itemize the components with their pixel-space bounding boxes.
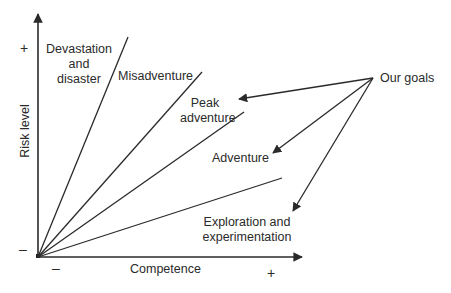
zone-label-misadventure: Misadventure xyxy=(118,69,193,84)
zone-label-devastation-line1: Devastation xyxy=(44,42,114,57)
zone-label-peak-adventure: Peak adventure xyxy=(180,96,230,126)
zone-label-peak-line1: Peak xyxy=(180,96,230,111)
zone-label-devastation-line2: and xyxy=(44,57,114,72)
x-axis-plus-sign: + xyxy=(267,266,275,280)
zone-label-exploration-line1: Exploration and xyxy=(202,215,292,230)
zone-label-devastation-line3: disaster xyxy=(44,72,114,87)
x-axis-label: Competence xyxy=(130,262,201,277)
goal-arrow-exploration xyxy=(293,78,373,211)
boundary-line-misadventure xyxy=(38,72,202,257)
goal-arrow-peak-adventure xyxy=(239,78,373,99)
our-goals-label: Our goals xyxy=(380,71,434,86)
y-axis-minus-sign: – xyxy=(19,242,27,256)
zone-label-devastation: Devastation and disaster xyxy=(44,42,114,87)
zone-label-adventure: Adventure xyxy=(212,151,269,166)
zone-label-exploration: Exploration and experimentation xyxy=(202,215,292,245)
y-axis-label: Risk level xyxy=(18,104,32,158)
y-axis-plus-sign: + xyxy=(20,41,28,55)
zone-label-exploration-line2: experimentation xyxy=(202,230,292,245)
goal-arrow-adventure xyxy=(273,78,373,153)
x-axis-minus-sign: – xyxy=(52,261,60,275)
zone-label-peak-line2: adventure xyxy=(180,111,230,126)
